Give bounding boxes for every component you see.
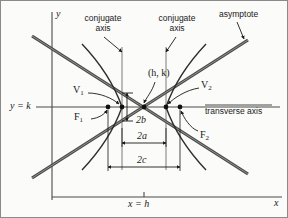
y-axis-label: y — [56, 9, 60, 19]
y-equals-k-label: y = k — [10, 101, 31, 111]
vertex-left-point — [120, 105, 125, 110]
conjugate-axis-left-label: conjugate axis — [64, 14, 142, 33]
transverse-axis-label: transverse axis — [205, 107, 262, 117]
focus-right-subscript: 2 — [206, 134, 210, 142]
focus-left-point — [106, 105, 111, 110]
center-point-label: (h, k) — [148, 68, 170, 78]
leader-focus-left — [91, 110, 107, 119]
center-point-marker — [142, 105, 147, 110]
x-equals-h-label: x = h — [128, 199, 149, 209]
conjugate-axis-right-label: conjugate axis — [138, 14, 216, 33]
vertex-right-subscript: 2 — [208, 84, 212, 92]
vertex-right-label: V2 — [201, 80, 212, 94]
focus-left-label: F1 — [74, 112, 83, 126]
leader-vertex-left — [88, 93, 119, 104]
leader-asymptote — [237, 22, 244, 39]
leader-focus-right — [181, 111, 198, 131]
leader-conjugate-right — [166, 37, 176, 52]
vertex-left-subscript: 1 — [80, 89, 84, 97]
vertex-left-label: V1 — [73, 85, 84, 99]
dimension-2a-label: 2a — [137, 131, 147, 141]
hyperbola-figure: y x y = k x = h conjugate axis conjugate… — [0, 0, 288, 218]
leader-conjugate-left — [104, 37, 122, 52]
dimension-2b-label: 2b — [136, 115, 146, 125]
dimension-2c-label: 2c — [137, 155, 146, 165]
focus-right-label: F2 — [200, 130, 209, 144]
asymptote-label: asymptote — [219, 10, 258, 20]
focus-right-point — [178, 105, 183, 110]
vertex-right-point — [164, 105, 169, 110]
x-axis-label: x — [274, 198, 278, 208]
focus-left-subscript: 1 — [80, 116, 84, 124]
